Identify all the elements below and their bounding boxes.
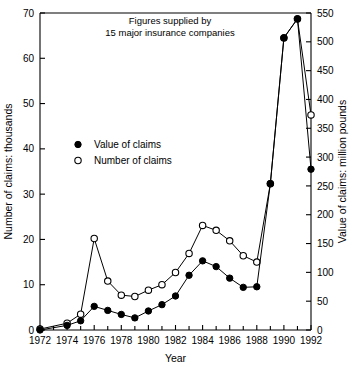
x-ticklabel: 1984 xyxy=(191,335,214,346)
datapoint-number-of-claims xyxy=(199,222,205,228)
y-ticklabel-right: 500 xyxy=(317,36,334,47)
datapoint-value-of-claims xyxy=(186,272,192,278)
y-ticklabel-right: 150 xyxy=(317,238,334,249)
datapoint-value-of-claims xyxy=(281,35,287,41)
chart-annotation-line: 15 major insurance companies xyxy=(105,27,235,38)
datapoint-value-of-claims xyxy=(132,315,138,321)
x-ticklabel: 1972 xyxy=(29,335,52,346)
datapoint-number-of-claims xyxy=(118,292,124,298)
y-ticklabel-right: 450 xyxy=(317,65,334,76)
y-ticklabel-right: 50 xyxy=(317,296,329,307)
datapoint-value-of-claims xyxy=(105,307,111,313)
x-ticklabel: 1974 xyxy=(56,335,79,346)
y-ticklabel-left: 30 xyxy=(23,189,35,200)
datapoint-value-of-claims xyxy=(159,301,165,307)
datapoint-number-of-claims xyxy=(308,112,314,118)
y-ticklabel-left: 50 xyxy=(23,98,35,109)
datapoint-value-of-claims xyxy=(77,318,83,324)
legend-label: Value of claims xyxy=(94,139,161,150)
y-ticklabel-right: 200 xyxy=(317,209,334,220)
datapoint-number-of-claims xyxy=(254,259,260,265)
y-ticklabel-right: 0 xyxy=(317,325,323,336)
y-axis-left-title: Number of claims: thousands xyxy=(2,104,14,240)
datapoint-number-of-claims xyxy=(77,311,83,317)
y-ticklabel-left: 10 xyxy=(23,279,35,290)
x-ticklabel: 1986 xyxy=(219,335,242,346)
datapoint-value-of-claims xyxy=(227,275,233,281)
y-ticklabel-left: 20 xyxy=(23,234,35,245)
y-axis-right-title: Value of claims: million pounds xyxy=(336,100,348,243)
y-ticklabel-right: 400 xyxy=(317,94,334,105)
datapoint-value-of-claims xyxy=(254,284,260,290)
datapoint-number-of-claims xyxy=(91,235,97,241)
datapoint-number-of-claims xyxy=(172,269,178,275)
datapoint-value-of-claims xyxy=(37,327,43,333)
datapoint-number-of-claims xyxy=(227,238,233,244)
y-ticklabel-left: 0 xyxy=(28,325,34,336)
x-ticklabel: 1988 xyxy=(246,335,269,346)
datapoint-number-of-claims xyxy=(159,282,165,288)
datapoint-value-of-claims xyxy=(294,16,300,22)
x-ticklabel: 1990 xyxy=(273,335,296,346)
x-ticklabel: 1980 xyxy=(137,335,160,346)
datapoint-number-of-claims xyxy=(213,227,219,233)
datapoint-value-of-claims xyxy=(145,308,151,314)
x-ticklabel: 1982 xyxy=(164,335,187,346)
y-ticklabel-right: 550 xyxy=(317,8,334,19)
legend-label: Number of claims xyxy=(94,155,172,166)
datapoint-value-of-claims xyxy=(308,166,314,172)
datapoint-value-of-claims xyxy=(64,322,70,328)
datapoint-number-of-claims xyxy=(132,293,138,299)
y-ticklabel-right: 350 xyxy=(317,123,334,134)
x-axis-title: Year xyxy=(165,352,187,364)
y-ticklabel-left: 40 xyxy=(23,143,35,154)
x-ticklabel: 1978 xyxy=(110,335,133,346)
series-line-value-of-claims xyxy=(40,19,311,330)
y-ticklabel-left: 70 xyxy=(23,8,35,19)
datapoint-value-of-claims xyxy=(213,263,219,269)
datapoint-value-of-claims xyxy=(199,258,205,264)
chart-annotation-line: Figures supplied by xyxy=(129,15,212,26)
y-ticklabel-right: 300 xyxy=(317,152,334,163)
x-ticklabel: 1976 xyxy=(83,335,106,346)
series-line-number-of-claims xyxy=(40,19,311,329)
y-ticklabel-left: 60 xyxy=(23,53,35,64)
datapoint-number-of-claims xyxy=(145,287,151,293)
y-ticklabel-right: 250 xyxy=(317,181,334,192)
legend-marker-filled-circle xyxy=(75,141,81,147)
claims-line-chart: 0102030405060700501001502002503003504004… xyxy=(0,0,357,377)
chart-container: 0102030405060700501001502002503003504004… xyxy=(0,0,357,377)
y-ticklabel-right: 100 xyxy=(317,267,334,278)
datapoint-value-of-claims xyxy=(91,303,97,309)
datapoint-number-of-claims xyxy=(186,250,192,256)
datapoint-value-of-claims xyxy=(172,293,178,299)
datapoint-value-of-claims xyxy=(267,180,273,186)
datapoint-value-of-claims xyxy=(118,311,124,317)
datapoint-value-of-claims xyxy=(240,284,246,290)
datapoint-number-of-claims xyxy=(240,253,246,259)
datapoint-number-of-claims xyxy=(105,278,111,284)
x-ticklabel: 1992 xyxy=(300,335,323,346)
legend-marker-open-circle xyxy=(75,157,81,163)
